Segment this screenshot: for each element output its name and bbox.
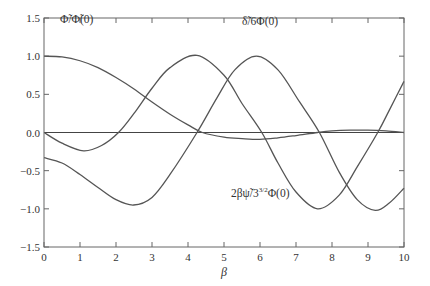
- y-tick-label: 1.0: [26, 50, 40, 62]
- x-tick-label: 6: [257, 251, 263, 263]
- x-tick-label: 0: [41, 251, 47, 263]
- x-tick-label: 5: [221, 251, 227, 263]
- x-tick-label: 10: [399, 251, 411, 263]
- axis-tick-labels: 0123456789101.51.00.50.0−0.5−1.0−1.5: [20, 12, 410, 263]
- psi-curve: [44, 56, 404, 210]
- y-tick-label: −0.5: [20, 165, 40, 177]
- x-tick-label: 1: [77, 251, 83, 263]
- x-tick-label: 9: [365, 251, 371, 263]
- y-tick-label: 1.5: [26, 12, 40, 24]
- chart: 0123456789101.51.00.50.0−0.5−1.0−1.5 β: [0, 0, 430, 286]
- y-tick-label: −1.0: [20, 203, 40, 215]
- x-tick-label: 7: [293, 251, 299, 263]
- x-axis-label: β: [220, 265, 227, 279]
- y-tick-label: 0.0: [26, 127, 40, 139]
- y-tick-label: −1.5: [20, 241, 40, 253]
- delta-curve-label: δ̃/6Φ(0): [242, 15, 278, 27]
- psi-label-tail: Φ(0): [268, 187, 290, 199]
- phi-label-text: Φ̃/Φ̃(0): [60, 13, 93, 25]
- y-tick-label: 0.5: [26, 88, 40, 100]
- psi-label-main: 2βψ̃/3: [231, 187, 259, 199]
- x-tick-label: 3: [149, 251, 155, 263]
- psi-label-superscript: 3/2: [259, 186, 268, 194]
- delta-label-text: δ̃/6Φ(0): [242, 15, 278, 27]
- x-tick-label: 2: [113, 251, 119, 263]
- psi-curve-label: 2βψ̃/33/2Φ(0): [231, 186, 290, 199]
- x-tick-label: 8: [329, 251, 335, 263]
- phi-curve: [44, 56, 404, 139]
- phi-curve-label: Φ̃/Φ̃(0): [60, 13, 93, 25]
- x-tick-label: 4: [185, 251, 191, 263]
